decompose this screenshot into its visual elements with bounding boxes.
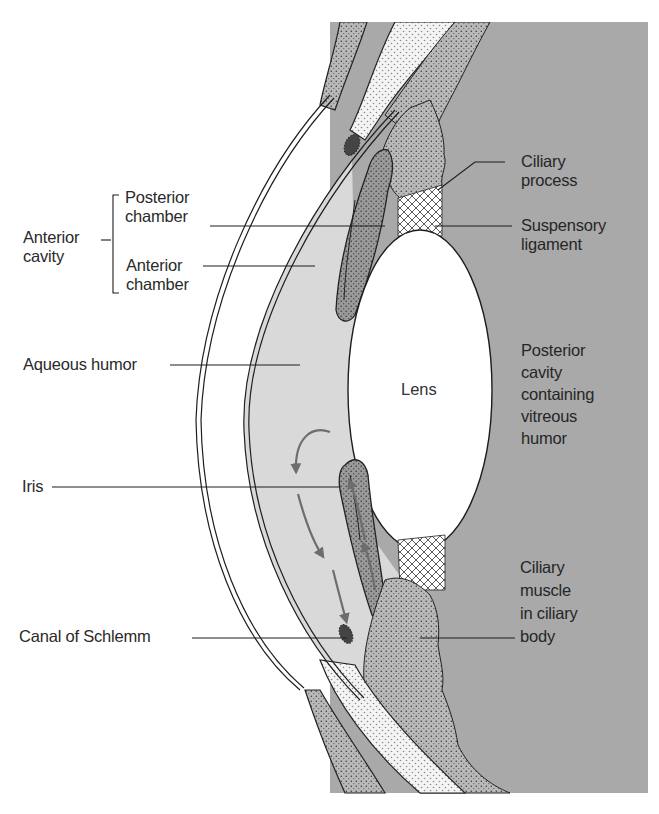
- label-posterior-cavity: Posterior cavity containing vitreous hum…: [521, 339, 594, 449]
- label-iris: Iris: [22, 477, 43, 496]
- label-canal-of-schlemm: Canal of Schlemm: [19, 627, 151, 646]
- label-aqueous-humor: Aqueous humor: [23, 355, 137, 374]
- label-lens: Lens: [401, 380, 437, 399]
- label-suspensory-ligament: Suspensory ligament: [521, 216, 606, 254]
- label-posterior-chamber: Posterior chamber: [125, 188, 189, 226]
- label-ciliary-process: Ciliary process: [521, 152, 577, 190]
- label-anterior-chamber: Anterior chamber: [126, 256, 189, 294]
- label-ciliary-muscle: Ciliary muscle in ciliary body: [520, 556, 578, 648]
- label-anterior-cavity: Anterior cavity: [23, 228, 79, 266]
